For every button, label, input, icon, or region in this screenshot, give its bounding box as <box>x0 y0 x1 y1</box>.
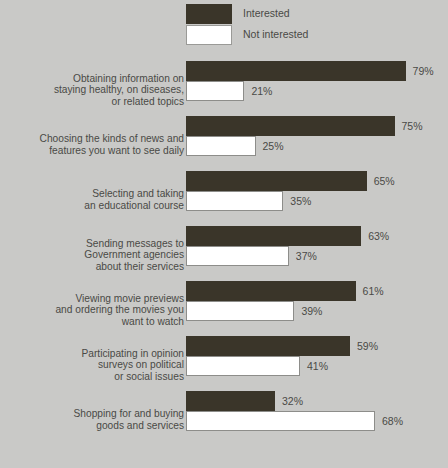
chart-group: Selecting and takingan educational cours… <box>0 171 448 226</box>
category-label-line: goods and services <box>4 420 184 432</box>
bar-value-label: 79% <box>406 61 434 81</box>
bar-not-interested <box>186 81 244 101</box>
bar-row: 63% <box>186 226 361 246</box>
bar-not-interested <box>186 356 300 376</box>
category-label-line: and ordering the movies you <box>4 304 184 316</box>
category-label-line: features you want to see daily <box>4 145 184 157</box>
category-label-line: staying healthy, on diseases, <box>4 84 184 96</box>
bar-value-label: 39% <box>294 301 322 321</box>
bar-value-label: 35% <box>283 191 311 211</box>
bar-value-label: 68% <box>375 411 403 431</box>
bar-pair: 65%35% <box>186 171 367 211</box>
category-label-line: Obtaining information on <box>4 73 184 85</box>
category-label-line: Participating in opinion <box>4 348 184 360</box>
legend-item-interested: Interested <box>186 3 386 24</box>
category-label: Viewing movie previewsand ordering the m… <box>4 293 184 328</box>
category-label-line: Sending messages to <box>4 238 184 250</box>
bar-interested <box>186 391 275 411</box>
bar-row: 65% <box>186 171 367 191</box>
bar-value-label: 59% <box>350 336 378 356</box>
bar-row: 32% <box>186 391 375 411</box>
bar-pair: 75%25% <box>186 116 395 156</box>
category-label-line: or related topics <box>4 96 184 108</box>
bar-chart: Interested Not interested Obtaining info… <box>0 0 448 468</box>
chart-group: Participating in opinionsurveys on polit… <box>0 336 448 391</box>
bar-pair: 32%68% <box>186 391 375 431</box>
bar-row: 35% <box>186 191 367 211</box>
chart-group: Obtaining information onstaying healthy,… <box>0 61 448 116</box>
chart-rows: Obtaining information onstaying healthy,… <box>0 61 448 446</box>
legend-swatch-not-interested <box>186 25 232 45</box>
category-label-line: Choosing the kinds of news and <box>4 133 184 145</box>
bar-value-label: 61% <box>356 281 384 301</box>
bar-value-label: 21% <box>244 81 272 101</box>
bar-pair: 59%41% <box>186 336 350 376</box>
bar-value-label: 25% <box>256 136 284 156</box>
bar-interested <box>186 116 395 136</box>
bar-not-interested <box>186 411 375 431</box>
legend-swatch-interested <box>186 4 232 24</box>
bar-interested <box>186 281 356 301</box>
bar-pair: 63%37% <box>186 226 361 266</box>
chart-group: Sending messages toGovernment agenciesab… <box>0 226 448 281</box>
bar-not-interested <box>186 136 256 156</box>
bar-row: 59% <box>186 336 350 356</box>
chart-legend: Interested Not interested <box>186 3 386 45</box>
chart-group: Choosing the kinds of news andfeatures y… <box>0 116 448 171</box>
legend-item-not-interested: Not interested <box>186 24 386 45</box>
chart-group: Viewing movie previewsand ordering the m… <box>0 281 448 336</box>
category-label-line: Selecting and taking <box>4 188 184 200</box>
category-label: Selecting and takingan educational cours… <box>4 188 184 211</box>
bar-value-label: 37% <box>289 246 317 266</box>
category-label-line: about their services <box>4 261 184 273</box>
bar-interested <box>186 226 361 246</box>
bar-row: 41% <box>186 356 350 376</box>
bar-pair: 79%21% <box>186 61 406 101</box>
bar-value-label: 41% <box>300 356 328 376</box>
category-label: Shopping for and buyinggoods and service… <box>4 408 184 431</box>
bar-row: 39% <box>186 301 356 321</box>
bar-row: 75% <box>186 116 395 136</box>
bar-value-label: 75% <box>395 116 423 136</box>
bar-interested <box>186 61 406 81</box>
bar-row: 37% <box>186 246 361 266</box>
category-label: Sending messages toGovernment agenciesab… <box>4 238 184 273</box>
category-label-line: an educational course <box>4 200 184 212</box>
bar-value-label: 32% <box>275 391 303 411</box>
bar-interested <box>186 336 350 356</box>
legend-label-interested: Interested <box>243 8 290 19</box>
category-label-line: want to watch <box>4 316 184 328</box>
bar-interested <box>186 171 367 191</box>
bar-row: 25% <box>186 136 395 156</box>
bar-row: 61% <box>186 281 356 301</box>
category-label-line: Viewing movie previews <box>4 293 184 305</box>
bar-value-label: 63% <box>361 226 389 246</box>
bar-row: 68% <box>186 411 375 431</box>
category-label-line: or social issues <box>4 371 184 383</box>
bar-not-interested <box>186 301 294 321</box>
bar-row: 21% <box>186 81 406 101</box>
category-label-line: surveys on political <box>4 359 184 371</box>
category-label-line: Government agencies <box>4 249 184 261</box>
category-label: Obtaining information onstaying healthy,… <box>4 73 184 108</box>
bar-not-interested <box>186 246 289 266</box>
bar-pair: 61%39% <box>186 281 356 321</box>
chart-group: Shopping for and buyinggoods and service… <box>0 391 448 446</box>
bar-row: 79% <box>186 61 406 81</box>
bar-not-interested <box>186 191 283 211</box>
legend-label-not-interested: Not interested <box>243 29 308 40</box>
category-label: Participating in opinionsurveys on polit… <box>4 348 184 383</box>
bar-value-label: 65% <box>367 171 395 191</box>
category-label-line: Shopping for and buying <box>4 408 184 420</box>
category-label: Choosing the kinds of news andfeatures y… <box>4 133 184 156</box>
